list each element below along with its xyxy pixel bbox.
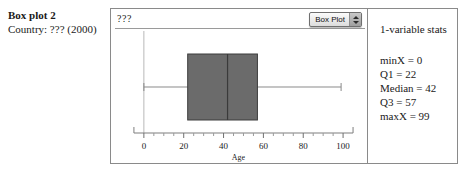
x-tick-label: 0 <box>142 141 147 151</box>
x-tick-label: 100 <box>336 141 350 151</box>
figure-subtitle: Country: ??? (2000) <box>8 22 108 36</box>
x-axis-label: Age <box>232 153 246 162</box>
figure-caption: Box plot 2 Country: ??? (2000) <box>8 8 108 36</box>
x-axis-tick-labels: 0 20 40 60 80 100 <box>142 141 351 151</box>
boxplot-widget: ??? Box Plot <box>110 8 458 164</box>
stat-row-minx: minX = 0 <box>380 53 436 67</box>
stats-pane: 1-variable stats minX = 0 Q1 = 22 Median… <box>368 9 457 163</box>
x-tick-label: 20 <box>179 141 188 151</box>
stats-list: minX = 0 Q1 = 22 Median = 42 Q3 = 57 max… <box>380 53 436 123</box>
x-tick-label: 60 <box>259 141 268 151</box>
stat-row-q1: Q1 = 22 <box>380 67 436 81</box>
stat-row-maxx: maxX = 99 <box>380 109 436 123</box>
stat-row-median: Median = 42 <box>380 81 436 95</box>
figure-title: Box plot 2 <box>8 8 108 22</box>
x-tick-label: 40 <box>219 141 228 151</box>
x-tick-label: 80 <box>299 141 308 151</box>
plot-pane: ??? Box Plot <box>111 9 368 163</box>
boxplot-canvas: 0 20 40 60 80 100 Age <box>111 9 367 163</box>
iqr-box[interactable] <box>188 54 258 120</box>
stat-row-q3: Q3 = 57 <box>380 95 436 109</box>
stats-title: 1-variable stats <box>380 23 447 35</box>
